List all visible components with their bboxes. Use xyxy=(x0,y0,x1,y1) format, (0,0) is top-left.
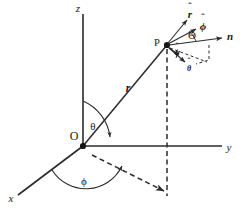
theta-hat-label: θ xyxy=(187,64,192,73)
r-hat-label-group: ˆ r xyxy=(188,1,193,19)
n-vector-label: n xyxy=(227,30,233,42)
phi-hat-label: ϕ xyxy=(200,20,207,32)
origin-dot xyxy=(80,143,86,149)
x-axis-label: x xyxy=(8,192,14,204)
phi-azimuth-arc xyxy=(52,166,122,189)
normal-arc-dashed xyxy=(196,45,209,64)
phi-azimuth-label: ϕ xyxy=(81,175,87,187)
r-hat-line xyxy=(168,20,187,43)
spherical-coordinate-diagram: z y x r θ ϕ P O xyxy=(0,0,247,212)
axis-group xyxy=(18,14,222,195)
r-vector-label: r xyxy=(126,82,131,94)
origin-label: O xyxy=(70,129,79,143)
theta-polar-label: θ xyxy=(90,120,95,132)
point-p-label: P xyxy=(154,37,160,48)
theta-hat-label-group: ˆ θ xyxy=(187,57,192,73)
diagram-canvas: z y x r θ ϕ P O xyxy=(0,0,247,212)
y-axis-label: y xyxy=(226,141,232,153)
phi-hat-small-label: ϕ xyxy=(175,48,180,57)
x-axis-line xyxy=(18,146,83,195)
r-hat-label: r xyxy=(188,8,193,20)
z-axis-label: z xyxy=(75,2,81,14)
theta-capital-label: Θ xyxy=(188,29,196,41)
phi-hat-label-group: ˆ ϕ xyxy=(200,12,207,31)
